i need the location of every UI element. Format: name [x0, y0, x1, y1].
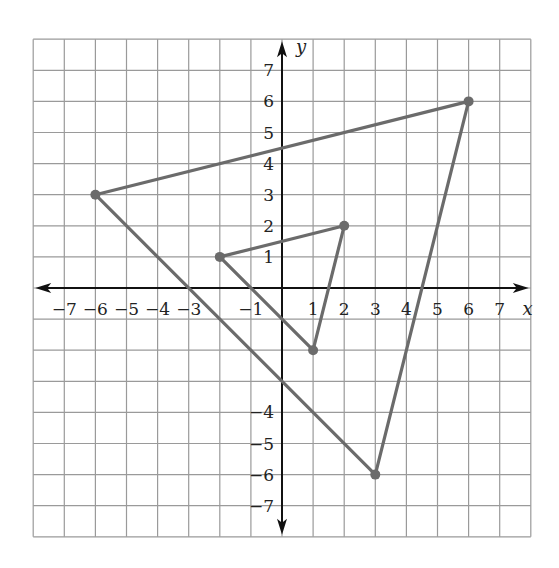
y-tick-label: 2: [263, 216, 274, 236]
x-tick-label: −7: [52, 299, 77, 319]
y-tick-label: −5: [249, 434, 274, 454]
vertex-point: [90, 190, 100, 200]
x-axis-label: x: [523, 298, 533, 319]
vertex-point: [339, 221, 349, 231]
y-tick-label: −4: [249, 402, 274, 422]
x-tick-label: −5: [114, 299, 139, 319]
y-tick-label: 7: [263, 60, 274, 80]
coordinate-plane: −7−6−5−4−3−112345677654321−4−5−6−7xy: [0, 0, 559, 568]
x-tick-label: 7: [494, 299, 505, 319]
x-tick-label: 5: [432, 299, 443, 319]
y-tick-label: −6: [249, 465, 274, 485]
x-tick-label: −4: [145, 299, 170, 319]
y-tick-label: 3: [263, 185, 274, 205]
x-tick-label: 4: [401, 299, 412, 319]
y-tick-label: −7: [249, 496, 274, 516]
x-tick-label: 2: [339, 299, 350, 319]
x-tick-label: −3: [176, 299, 201, 319]
vertex-point: [215, 252, 225, 262]
y-tick-label: 6: [263, 91, 274, 111]
y-tick-label: 5: [263, 123, 274, 143]
y-tick-label: 1: [263, 247, 274, 267]
x-tick-label: −1: [238, 299, 263, 319]
x-tick-label: 3: [370, 299, 381, 319]
y-axis-label: y: [295, 36, 307, 57]
axes: [35, 41, 529, 535]
vertex-point: [308, 345, 318, 355]
vertex-point: [370, 470, 380, 480]
vertex-point: [464, 96, 474, 106]
x-tick-label: 6: [463, 299, 474, 319]
x-tick-label: −6: [83, 299, 108, 319]
y-tick-label: 4: [263, 154, 274, 174]
x-tick-label: 1: [308, 299, 319, 319]
